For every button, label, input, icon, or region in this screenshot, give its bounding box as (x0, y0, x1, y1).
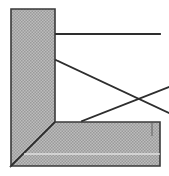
figure-canvas (0, 0, 169, 176)
figure-container (0, 0, 169, 176)
